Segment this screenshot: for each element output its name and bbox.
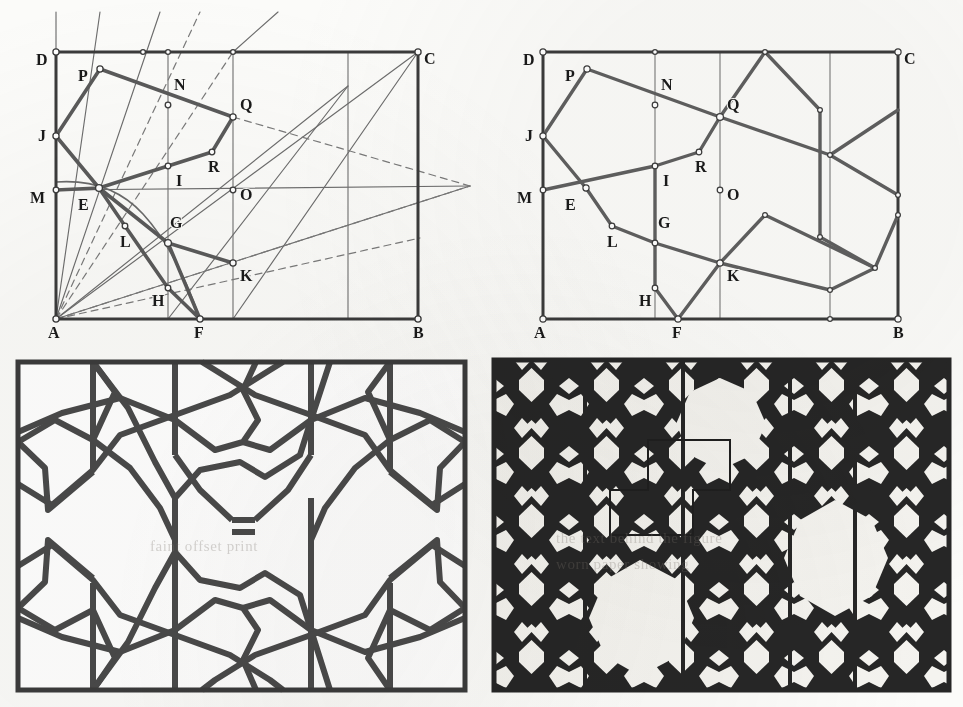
vertex-right-edge-mid: [896, 193, 901, 198]
strand-right-edge-connector: [830, 155, 898, 195]
vertex-r-right: [696, 149, 702, 155]
figure-root: A B C D E F G H I J K L M N O P Q R: [0, 0, 963, 707]
filled-tessellation-svg: [490, 350, 963, 707]
label-h: H: [152, 292, 165, 309]
vertex-loop-corner-lower: [818, 235, 823, 240]
vertex-k: [230, 260, 236, 266]
vertex-b: [415, 316, 421, 322]
vertex-o: [230, 187, 236, 193]
vertex-g: [165, 240, 172, 247]
label-o-right: O: [727, 186, 739, 203]
heavy-polygon-j-p-q-r-i-e: [56, 69, 233, 188]
dashed-ray-a-q: [56, 52, 233, 319]
strand-j-e-l-g-k-lower-right: [543, 136, 875, 290]
label-c: C: [424, 50, 436, 67]
label-e: E: [78, 196, 89, 213]
line-tessellation-panel: [0, 350, 490, 707]
vertex-l-right: [609, 223, 615, 229]
label-c-right: C: [904, 50, 916, 67]
vertex-l: [122, 223, 128, 229]
label-l: L: [120, 233, 131, 250]
vertex-a: [53, 316, 59, 322]
vertex-k-right: [717, 260, 723, 266]
vertex-top-n-right: [653, 50, 658, 55]
vertex-r: [209, 149, 215, 155]
ray-mid-to-bottom: [168, 86, 348, 319]
vertex-a-right: [540, 316, 546, 322]
label-a-right: A: [534, 324, 546, 341]
label-h-right: H: [639, 292, 652, 309]
vertex-p-right: [584, 66, 590, 72]
label-f-right: F: [672, 324, 682, 341]
line-tessellation-svg: [0, 350, 490, 707]
label-l-right: L: [607, 233, 618, 250]
label-g-right: G: [658, 214, 671, 231]
vertex-m-right: [540, 187, 546, 193]
label-p-right: P: [565, 67, 575, 84]
vertex-loop-corner-right: [818, 108, 823, 113]
vertex-top-q: [231, 50, 236, 55]
label-b-right: B: [893, 324, 904, 341]
ray-a-to-upper-2: [56, 12, 160, 319]
label-k: K: [240, 267, 253, 284]
label-r-right: R: [695, 158, 707, 175]
heavy-construction-group: [56, 69, 233, 319]
vertex-m: [53, 187, 59, 193]
strand-right-connector: [820, 237, 875, 268]
vertex-bottom-guide-right: [828, 317, 833, 322]
construction-lines-svg: A B C D E F G H I J K L M N O P Q R: [0, 0, 480, 350]
label-q-right: Q: [727, 96, 739, 113]
vertex-guide-cross-lower: [828, 288, 833, 293]
vertex-c-right: [895, 49, 901, 55]
label-r: R: [208, 158, 220, 175]
label-k-right: K: [727, 267, 740, 284]
label-m-right: M: [517, 189, 532, 206]
vertex-top-loop-right: [763, 50, 768, 55]
vertex-q-right: [717, 114, 724, 121]
label-i-right: I: [663, 172, 669, 189]
vertex-h-right: [652, 285, 658, 291]
ray-a-to-right-1: [56, 86, 348, 319]
resolved-pattern-svg: A B C D E F G H I J K L M N O P Q R: [490, 0, 963, 350]
label-j: J: [38, 127, 46, 144]
vertex-d-right: [540, 49, 546, 55]
point-label-group-right: A B C D E F G H I J K L M N O P Q R: [517, 50, 916, 341]
vertex-lower-right-bend: [873, 266, 878, 271]
vertex-c: [415, 49, 421, 55]
construction-lines-panel: A B C D E F G H I J K L M N O P Q R: [0, 0, 480, 350]
vertex-i: [165, 163, 171, 169]
vertex-q: [230, 114, 236, 120]
filled-tessellation-panel: [490, 350, 963, 707]
label-g: G: [170, 214, 183, 231]
vertex-b-right: [895, 316, 901, 322]
strand-k-lower-loop: [720, 215, 898, 268]
vertex-f-right: [675, 316, 681, 322]
heavy-path-e-l-h-f-g: [99, 188, 200, 319]
label-n: N: [174, 76, 186, 93]
vertex-lower-loop-right: [763, 213, 768, 218]
label-b: B: [413, 324, 424, 341]
vertex-j-right: [540, 133, 546, 139]
vertex-top-mid: [141, 50, 146, 55]
vertex-top-n: [166, 50, 171, 55]
vertex-n-right: [652, 102, 658, 108]
ray-top-diagonal: [233, 12, 278, 52]
strand-m-i-r-q: [543, 117, 720, 190]
vertex-h: [165, 285, 171, 291]
ray-c-to-bottom: [233, 52, 418, 319]
vertex-f: [197, 316, 203, 322]
label-e-right: E: [565, 196, 576, 213]
filled-tessellation-field: [494, 360, 949, 690]
label-n-right: N: [661, 76, 673, 93]
dashed-q-to-right: [233, 117, 470, 186]
label-f: F: [194, 324, 204, 341]
vertex-n: [165, 102, 171, 108]
vertex-j: [53, 133, 59, 139]
vertex-e: [96, 185, 103, 192]
label-a: A: [48, 324, 60, 341]
vertex-g-right: [652, 240, 658, 246]
vertex-o-right: [717, 187, 723, 193]
vertex-d: [53, 49, 59, 55]
vertex-p: [97, 66, 103, 72]
vertex-i-right: [652, 163, 658, 169]
